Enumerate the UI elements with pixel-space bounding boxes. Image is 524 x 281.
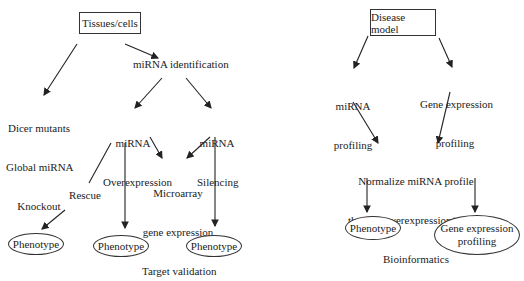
disease-model-box: Disease model bbox=[370, 9, 436, 36]
silencing-line-1: miRNA bbox=[197, 137, 237, 150]
phenotype-label-right: Phenotype bbox=[350, 222, 396, 235]
phenotype-label-3: Phenotype bbox=[191, 240, 237, 253]
normalize-line-1: Normalize miRNA profile bbox=[348, 175, 484, 188]
phenotype-label-2: Phenotype bbox=[98, 240, 144, 253]
mirna-profiling-line-1: miRNA bbox=[333, 100, 373, 113]
phenotype-ellipse-right: Phenotype bbox=[345, 216, 401, 240]
dicer-line-2: Global miRNA bbox=[6, 161, 72, 174]
microarray-label: Microarray gene expression Target valida… bbox=[142, 161, 214, 281]
dicer-line-1: Dicer mutants bbox=[6, 122, 72, 135]
microarray-line-3: Target validation bbox=[142, 265, 214, 278]
gene-outcome-line-1: Gene expression bbox=[440, 222, 513, 235]
gene-outcome-line-2: profiling bbox=[440, 235, 513, 248]
gene-profiling-line-1: Gene expression bbox=[420, 98, 490, 111]
rescue-label: Rescue bbox=[65, 189, 105, 202]
normalize-label: Normalize miRNA profile through overexpr… bbox=[348, 149, 484, 279]
microarray-line-1: Microarray bbox=[142, 187, 214, 200]
phenotype-ellipse-2: Phenotype bbox=[93, 235, 149, 257]
phenotype-ellipse-3: Phenotype bbox=[186, 235, 242, 257]
phenotype-label-1: Phenotype bbox=[13, 238, 59, 251]
disease-model-label: Disease model bbox=[371, 11, 435, 35]
dicer-line-3: Knockout bbox=[6, 200, 72, 213]
overexpression-line-1: miRNA bbox=[103, 137, 163, 150]
gene-expression-ellipse: Gene expression profiling bbox=[434, 215, 520, 255]
normalize-line-3: Bioinformatics bbox=[348, 253, 484, 266]
dicer-mutants-label: Dicer mutants Global miRNA Knockout bbox=[6, 96, 72, 226]
phenotype-ellipse-1: Phenotype bbox=[8, 233, 64, 255]
tissues-cells-label: Tissues/cells bbox=[82, 17, 138, 29]
tissues-cells-box: Tissues/cells bbox=[79, 12, 141, 34]
mirna-identification-label: miRNA identification bbox=[133, 58, 228, 71]
